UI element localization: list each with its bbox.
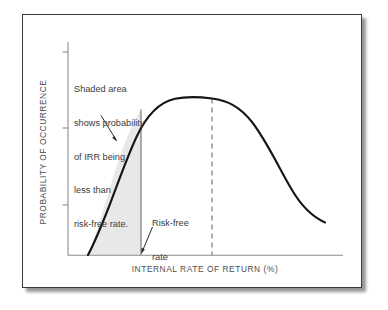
riskfree-annotation-line-1: Risk-free (152, 218, 189, 229)
riskfree-annotation-line-2: rate (152, 252, 189, 263)
y-axis-title: PROBABILITY OF OCCURRENCE (38, 80, 48, 225)
figure-root: INTERNAL RATE OF RETURN (%) PROBABILITY … (0, 0, 388, 310)
shaded-annotation-line-3: of IRR being (74, 152, 144, 163)
chart-canvas: INTERNAL RATE OF RETURN (%) PROBABILITY … (0, 0, 388, 310)
shaded-annotation-line-1: Shaded area (74, 84, 144, 95)
shaded-annotation-line-2: shows probability (74, 118, 144, 129)
shaded-annotation-line-4: less than (74, 185, 144, 196)
shaded-area-annotation: Shaded area shows probability of IRR bei… (74, 62, 144, 252)
shaded-annotation-line-5: risk-free rate. (74, 219, 144, 230)
risk-free-rate-annotation: Risk-free rate (152, 196, 189, 286)
